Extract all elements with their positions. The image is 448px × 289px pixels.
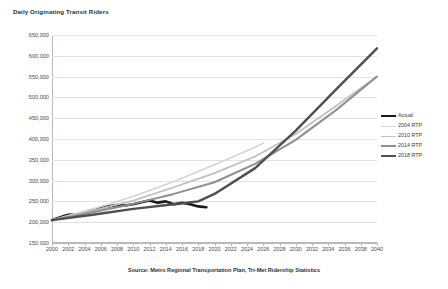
- legend-item[interactable]: 2014 RTP: [381, 141, 443, 151]
- x-tick-label: 2012: [144, 246, 156, 252]
- legend-swatch: [381, 126, 396, 127]
- x-tick-label: 2008: [111, 246, 123, 252]
- y-axis: 150,000200,000250,000300,000350,000400,0…: [0, 35, 49, 243]
- y-tick-label: 550,000: [3, 74, 49, 80]
- plot-area: [52, 35, 377, 243]
- legend-swatch: [381, 115, 396, 117]
- legend-item[interactable]: 2010 RTP: [381, 131, 443, 141]
- y-tick-label: 450,000: [3, 115, 49, 121]
- source-note: Source: Metro Regional Transportation Pl…: [0, 267, 448, 273]
- x-tick-label: 2040: [371, 246, 383, 252]
- x-tick-label: 2020: [209, 246, 221, 252]
- x-tick-label: 2024: [241, 246, 253, 252]
- x-tick-label: 2016: [176, 246, 188, 252]
- y-tick-label: 600,000: [3, 53, 49, 59]
- y-tick-label: 250,000: [3, 198, 49, 204]
- legend-swatch: [381, 155, 396, 157]
- x-tick-label: 2004: [79, 246, 91, 252]
- x-tick-label: 2018: [192, 246, 204, 252]
- y-tick-label: 500,000: [3, 94, 49, 100]
- x-tick-label: 2030: [290, 246, 302, 252]
- x-tick-label: 2036: [339, 246, 351, 252]
- legend-label: 2014 RTP: [398, 143, 422, 148]
- legend-swatch: [381, 136, 396, 137]
- x-tick-label: 2002: [62, 246, 74, 252]
- legend-label: 2004 RTP: [398, 123, 422, 128]
- legend-label: Actual: [398, 113, 413, 118]
- legend-item[interactable]: 2018 RTP: [381, 151, 443, 161]
- x-tick-label: 2006: [95, 246, 107, 252]
- y-tick-label: 200,000: [3, 219, 49, 225]
- x-tick-label: 2022: [225, 246, 237, 252]
- y-tick-label: 300,000: [3, 178, 49, 184]
- x-tick-label: 2038: [355, 246, 367, 252]
- y-tick-label: 650,000: [3, 32, 49, 38]
- x-tick-label: 2034: [322, 246, 334, 252]
- chart-container: Daily Originating Transit Riders 150,000…: [0, 0, 448, 289]
- x-axis: 2000200220042006200820102012201420162018…: [52, 246, 377, 258]
- series-line: [52, 143, 263, 220]
- y-tick-label: 400,000: [3, 136, 49, 142]
- chart-title: Daily Originating Transit Riders: [13, 8, 109, 15]
- legend-label: 2010 RTP: [398, 133, 422, 138]
- series-line: [52, 48, 377, 220]
- x-tick-label: 2014: [160, 246, 172, 252]
- chart-legend: Actual2004 RTP2010 RTP2014 RTP2018 RTP: [381, 111, 443, 161]
- y-tick-label: 150,000: [3, 240, 49, 246]
- legend-swatch: [381, 145, 396, 147]
- y-tick-label: 350,000: [3, 157, 49, 163]
- x-tick-label: 2028: [274, 246, 286, 252]
- x-tick-label: 2000: [46, 246, 58, 252]
- legend-item[interactable]: 2004 RTP: [381, 121, 443, 131]
- series-layer: [52, 35, 377, 243]
- legend-label: 2018 RTP: [398, 153, 422, 158]
- x-tick-label: 2010: [127, 246, 139, 252]
- x-tick-label: 2032: [306, 246, 318, 252]
- legend-item[interactable]: Actual: [381, 111, 443, 121]
- x-tick-label: 2026: [257, 246, 269, 252]
